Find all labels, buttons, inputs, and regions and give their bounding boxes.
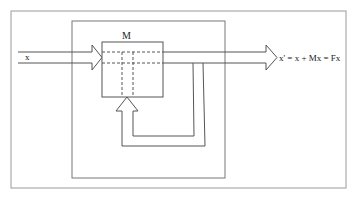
block-m-label: M — [122, 30, 131, 41]
outer-frame — [11, 11, 346, 188]
diagram-canvas: x M x' = x + Mx = Fx — [0, 0, 356, 197]
output-arrow — [163, 45, 277, 70]
input-arrow — [18, 45, 102, 70]
output-label: x' = x + Mx = Fx — [279, 53, 341, 63]
input-label: x — [25, 52, 30, 62]
